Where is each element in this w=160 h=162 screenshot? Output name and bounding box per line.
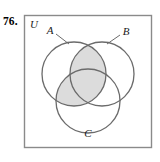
- set-label-c: C: [84, 127, 92, 139]
- venn-diagram-figure: 76. U A B C: [0, 0, 160, 162]
- universe-label: U: [30, 18, 39, 30]
- set-label-b: B: [123, 25, 130, 37]
- venn-diagram-canvas: U A B C: [0, 0, 160, 162]
- set-label-a: A: [46, 24, 54, 36]
